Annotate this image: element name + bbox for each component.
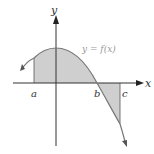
area-under-curve-diagram: y x y = f(x) a b c <box>0 0 154 154</box>
y-axis-label: y <box>50 4 58 17</box>
point-label-a: a <box>31 88 37 99</box>
x-axis-arrow-icon <box>136 80 144 86</box>
curve-label: y = f(x) <box>81 44 116 54</box>
point-label-b: b <box>94 88 100 99</box>
x-axis-label: x <box>145 77 152 90</box>
curve-right-arrow-icon <box>122 140 127 147</box>
point-label-c: c <box>122 88 128 99</box>
